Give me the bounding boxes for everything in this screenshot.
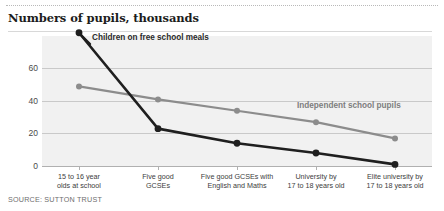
- data-point: [234, 140, 241, 147]
- source-note: SOURCE: SUTTON TRUST: [8, 195, 102, 204]
- data-point: [76, 83, 82, 89]
- data-point: [234, 108, 240, 114]
- annotation-independent-school-pupils: Independent school pupils: [297, 101, 401, 110]
- annotation-leader-lines: [80, 34, 90, 44]
- data-point: [155, 125, 162, 132]
- data-point: [392, 135, 398, 141]
- data-point: [313, 150, 320, 157]
- chart-figure: Numbers of pupils, thousands 60 40 20 0 …: [0, 0, 444, 211]
- series-children-on-free-school-meals: [76, 29, 399, 167]
- series-independent-school-pupils: [76, 83, 398, 141]
- data-point: [392, 161, 399, 168]
- annotation-children-free-school-meals: Children on free school meals: [92, 33, 209, 42]
- data-point: [155, 96, 161, 102]
- data-point: [313, 119, 319, 125]
- leader-line-dark: [80, 34, 90, 44]
